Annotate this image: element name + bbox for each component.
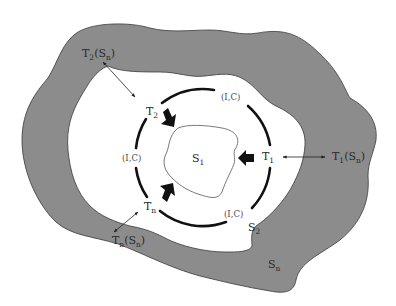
- label-tn-sn: Tn(Sn): [112, 234, 145, 249]
- ring-label-bottom-right: (I,C): [224, 209, 243, 219]
- ring-label-left: (I,C): [122, 153, 141, 163]
- nested-systems-diagram: (I,C) (I,C) (I,C) S1 S2 Sn T2 T1 Tn T2(S…: [0, 0, 396, 306]
- label-t1-sn: T1(Sn): [332, 150, 365, 165]
- label-t2-sn: T2(Sn): [82, 47, 115, 62]
- ring-label-top-right: (I,C): [221, 92, 240, 102]
